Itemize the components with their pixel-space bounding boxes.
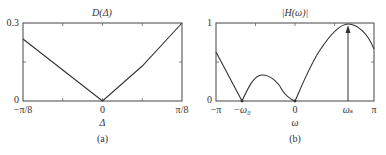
panel-b-curve	[216, 24, 374, 101]
panel-a-x-right: π/8	[176, 104, 189, 115]
arrow-head-icon	[346, 25, 351, 33]
panel-b-frame	[216, 23, 374, 101]
panel-b-x-mid: 0	[293, 104, 298, 115]
arrow-ws	[346, 25, 351, 101]
panel-b-x-neg-w0: −ω₀	[233, 104, 251, 115]
panel-a-curve	[23, 23, 182, 101]
panel-a-chart: D(Δ) 0.3 0 −π/8 0 π/8 Δ (a)	[7, 7, 189, 145]
panel-b-caption: (b)	[289, 133, 301, 145]
panel-b-title: |H(ω)|	[282, 7, 308, 19]
figure: D(Δ) 0.3 0 −π/8 0 π/8 Δ (a) |H(ω)|	[0, 0, 386, 155]
panel-a-title: D(Δ)	[91, 7, 112, 19]
panel-b-x-ws: ωₛ	[343, 104, 353, 115]
panel-b-ticks	[216, 23, 374, 62]
panel-b-xlabel: ω	[291, 117, 298, 128]
panel-a-ticks	[23, 23, 182, 101]
panel-a-caption: (a)	[97, 133, 108, 145]
panel-a-y-max: 0.3	[7, 17, 20, 28]
zero-marker-neg-w0	[241, 100, 244, 103]
panel-b-x-right: π	[371, 104, 376, 115]
panel-a-frame	[23, 23, 182, 101]
panel-a-x-left: −π/8	[14, 104, 32, 115]
panel-a-x-mid: 0	[100, 104, 105, 115]
zero-marker-zero	[294, 100, 297, 103]
panel-a-xlabel: Δ	[99, 117, 106, 128]
panel-b-y-max: 1	[207, 17, 212, 28]
panel-b-chart: |H(ω)| 1 0 −π −ω₀ 0 ωₛ π ω (b)	[207, 7, 377, 145]
panel-b-x-left: −π	[211, 104, 222, 115]
